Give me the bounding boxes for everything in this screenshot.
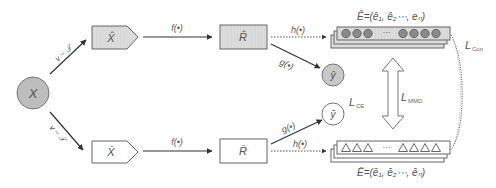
prediction-top: ŷ <box>322 64 344 86</box>
svg-text:h(•): h(•) <box>293 139 307 149</box>
svg-text:L: L <box>401 91 407 103</box>
augmented-view-top: X̂ <box>92 26 138 49</box>
loss-mmd-label: L MMD <box>401 91 423 104</box>
embedding-bottom-title: Ē=(ē₁, ē₂⋯, ēₙ) <box>357 167 425 178</box>
svg-text:f(•): f(•) <box>171 23 183 33</box>
svg-text:⋯: ⋯ <box>382 143 390 152</box>
input-label: X <box>28 86 39 101</box>
loss-con-label: L Con <box>465 39 483 52</box>
augment-arrow-top: v ~ 𝒯 <box>50 40 86 74</box>
svg-text:R̂: R̂ <box>239 30 247 43</box>
contrastive-loss-curve <box>451 35 462 150</box>
loss-ce-label: L CE <box>349 96 364 109</box>
projection-arrow-top: h(•) <box>271 25 326 37</box>
representation-top: R̂ <box>220 25 267 49</box>
svg-text:CE: CE <box>356 103 364 109</box>
svg-text:h(•): h(•) <box>291 25 305 35</box>
svg-text:X̂: X̂ <box>106 31 115 44</box>
embedding-stack-top: ⋯ <box>331 27 450 48</box>
svg-text:Con: Con <box>472 46 483 52</box>
projection-arrow-bottom: h(•) <box>271 139 326 151</box>
embedding-top-title: Ê=(ê₁, ê₂⋯, eₙ) <box>357 10 425 22</box>
svg-text:ŷ: ŷ <box>330 70 337 81</box>
svg-text:X̄: X̄ <box>106 146 115 158</box>
svg-text:⋯: ⋯ <box>382 28 390 37</box>
svg-text:MMD: MMD <box>408 98 423 104</box>
encoder-arrow-top: f(•) <box>143 23 212 37</box>
prediction-bottom: ȳ <box>322 103 344 125</box>
augment-arrow-bottom: v ~ 𝒯 <box>48 112 83 150</box>
svg-text:g(•): g(•) <box>278 57 295 72</box>
augment-bottom-label: v ~ 𝒯 <box>48 123 69 145</box>
input-node-x: X <box>17 77 49 109</box>
augmented-view-bottom: X̄ <box>92 141 138 163</box>
svg-text:ȳ: ȳ <box>330 109 337 120</box>
representation-bottom: R̄ <box>220 139 267 163</box>
svg-text:f(•): f(•) <box>171 137 183 147</box>
classifier-arrow-top: g(•) <box>271 44 320 72</box>
encoder-arrow-bottom: f(•) <box>143 137 212 151</box>
svg-text:L: L <box>465 39 471 51</box>
svg-text:L: L <box>349 96 355 108</box>
svg-text:R̄: R̄ <box>239 145 247 157</box>
embedding-stack-bottom: ⋯ <box>331 141 450 162</box>
